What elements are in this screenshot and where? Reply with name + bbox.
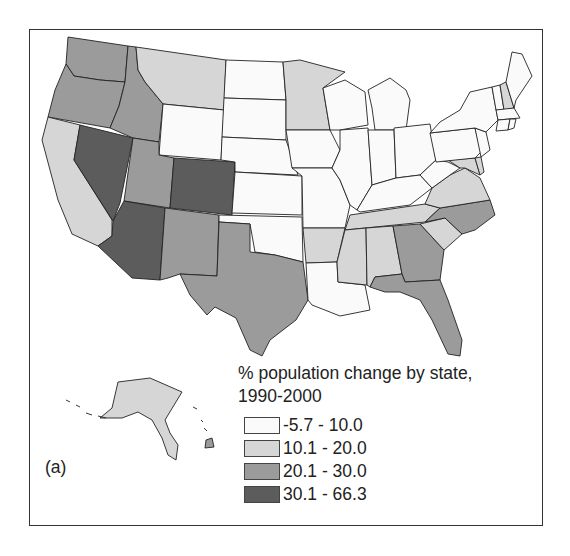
- legend-swatch-class-3: [244, 463, 280, 480]
- state-wi: [323, 80, 368, 130]
- state-ma: [496, 108, 520, 120]
- state-ks: [232, 172, 302, 215]
- legend-swatch-class-2: [244, 440, 280, 457]
- state-pa: [430, 128, 481, 162]
- legend-label: 10.1 - 20.0: [283, 438, 367, 459]
- legend-label: 30.1 - 66.3: [283, 484, 367, 505]
- state-hi: [205, 438, 214, 448]
- legend-swatch-class-1: [244, 417, 280, 434]
- state-ia: [286, 130, 340, 168]
- legend-title-line2: 1990-2000: [238, 385, 472, 408]
- state-wy: [159, 104, 224, 160]
- panel-label: (a): [45, 457, 66, 478]
- state-ak-aleutians: [66, 400, 106, 418]
- state-nd: [224, 60, 286, 100]
- legend-item: 20.1 - 30.0: [244, 460, 472, 483]
- state-in: [368, 130, 396, 185]
- legend-label: -5.7 - 10.0: [283, 415, 363, 436]
- state-co: [170, 158, 235, 215]
- legend-title-line1: % population change by state,: [238, 362, 472, 385]
- state-sd: [222, 98, 286, 140]
- legend-item: 10.1 - 20.0: [244, 437, 472, 460]
- legend-item: -5.7 - 10.0: [244, 414, 472, 437]
- state-hi-islands: [193, 407, 207, 431]
- legend-items: -5.7 - 10.0 10.1 - 20.0 20.1 - 30.0 30.1…: [244, 414, 472, 506]
- state-fl: [370, 274, 462, 356]
- legend: % population change by state, 1990-2000 …: [238, 362, 472, 506]
- state-mi: [368, 78, 410, 130]
- state-ny: [430, 87, 498, 133]
- state-nm: [160, 208, 219, 280]
- legend-label: 20.1 - 30.0: [283, 461, 367, 482]
- state-wa: [66, 37, 128, 82]
- legend-swatch-class-4: [244, 486, 280, 503]
- state-ak: [100, 378, 182, 460]
- legend-item: 30.1 - 66.3: [244, 483, 472, 506]
